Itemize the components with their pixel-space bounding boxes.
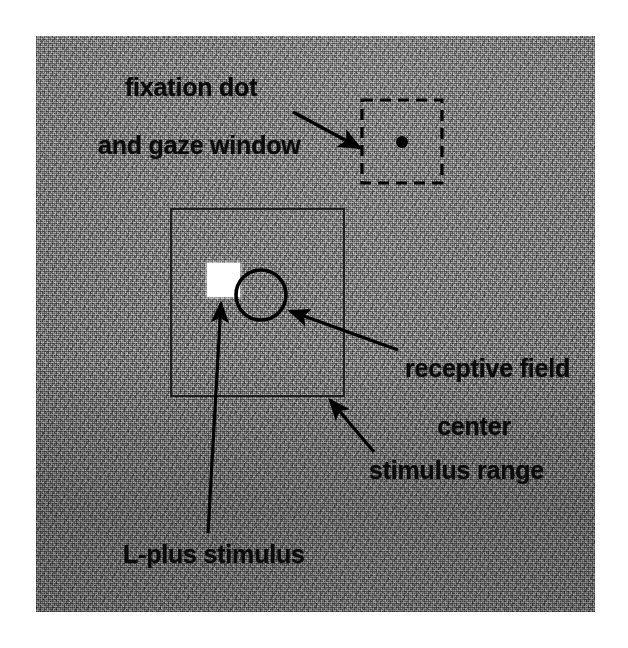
lplus-stimulus-patch	[207, 263, 240, 297]
figure-root: fixation dot and gaze window receptive f…	[0, 0, 628, 648]
label-fixation-dot-and-gaze-window: fixation dot and gaze window	[98, 44, 301, 218]
label-fixation-line1: fixation dot	[125, 73, 257, 101]
label-stimulus-range: stimulus range	[369, 456, 544, 485]
label-lplus-stimulus: L-plus stimulus	[123, 540, 305, 569]
label-fixation-line2: and gaze window	[98, 131, 301, 160]
label-receptive-line1: receptive field	[405, 354, 570, 382]
label-receptive-line2: center	[378, 412, 570, 441]
